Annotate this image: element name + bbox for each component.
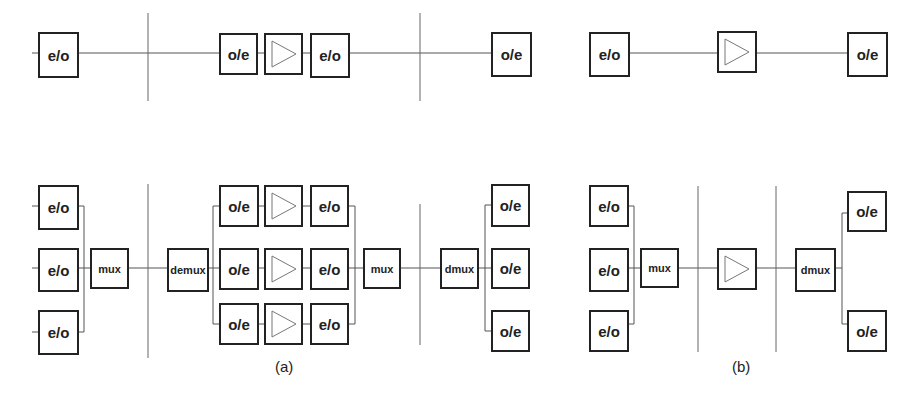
eo-converter-box: e/o <box>589 310 629 352</box>
mux-label: mux <box>648 262 671 274</box>
oe-label: o/e <box>856 323 878 340</box>
eo-converter-box: e/o <box>310 185 349 227</box>
eo-converter-box: e/o <box>38 248 79 292</box>
mux-label: mux <box>98 263 121 275</box>
eo-label: e/o <box>319 198 341 215</box>
amplifier-triangle-icon <box>722 36 752 68</box>
eo-label: e/o <box>319 316 341 333</box>
amplifier-box <box>264 33 303 75</box>
eo-label: e/o <box>48 324 70 341</box>
eo-converter-box: e/o <box>589 185 629 227</box>
oe-label: o/e <box>228 261 250 278</box>
oe-label: o/e <box>228 316 250 333</box>
eo-label: e/o <box>48 199 70 216</box>
eo-converter-box: e/o <box>310 33 350 78</box>
amplifier-box <box>264 248 303 290</box>
eo-label: e/o <box>319 261 341 278</box>
caption-b: (b) <box>732 358 750 375</box>
amplifier-box <box>717 248 757 290</box>
dmux-box: dmux <box>795 248 836 292</box>
eo-converter-box: e/o <box>310 248 349 290</box>
oe-converter-box: o/e <box>491 184 530 227</box>
mux-box: mux <box>90 248 129 289</box>
amplifier-triangle-icon <box>269 308 299 340</box>
demux-label: demux <box>170 264 205 276</box>
oe-label: o/e <box>228 198 250 215</box>
oe-converter-box: o/e <box>847 32 888 77</box>
oe-converter-box: o/e <box>491 310 530 352</box>
caption-a: (a) <box>275 358 293 375</box>
eo-converter-box: e/o <box>310 303 349 345</box>
oe-converter-box: o/e <box>219 303 259 345</box>
oe-label: o/e <box>856 203 878 220</box>
oe-converter-box: o/e <box>219 33 258 75</box>
eo-label: e/o <box>598 262 620 279</box>
oe-label: o/e <box>500 260 522 277</box>
oe-converter-box: o/e <box>491 248 530 289</box>
eo-converter-box: e/o <box>589 248 629 292</box>
eo-converter-box: e/o <box>38 32 79 78</box>
eo-label: e/o <box>48 262 70 279</box>
connection-lines <box>0 0 924 401</box>
eo-converter-box: e/o <box>38 310 79 355</box>
oe-label: o/e <box>500 323 522 340</box>
oe-converter-box: o/e <box>847 310 887 352</box>
amplifier-box <box>717 31 757 73</box>
mux-box: mux <box>363 248 401 289</box>
oe-label: o/e <box>857 46 879 63</box>
dmux-label: dmux <box>801 264 830 276</box>
oe-label: o/e <box>500 197 522 214</box>
amplifier-box <box>264 303 303 345</box>
dmux-label: dmux <box>445 263 474 275</box>
amplifier-triangle-icon <box>269 253 299 285</box>
diagram-canvas: e/o o/e e/o o/e e/o o/e e/o e/o e/o mux … <box>0 0 924 401</box>
oe-converter-box: o/e <box>491 32 532 77</box>
eo-label: e/o <box>48 47 70 64</box>
eo-converter-box: e/o <box>38 185 79 230</box>
oe-converter-box: o/e <box>219 185 259 227</box>
eo-label: e/o <box>599 46 621 63</box>
amplifier-triangle-icon <box>269 190 299 222</box>
oe-label: o/e <box>501 46 523 63</box>
eo-label: e/o <box>598 198 620 215</box>
amplifier-triangle-icon <box>269 38 299 70</box>
eo-converter-box: e/o <box>589 32 630 77</box>
demux-box: demux <box>167 248 209 292</box>
amplifier-triangle-icon <box>722 253 752 285</box>
mux-label: mux <box>371 263 394 275</box>
amplifier-box <box>264 185 303 227</box>
oe-label: o/e <box>228 46 250 63</box>
dmux-box: dmux <box>440 248 479 289</box>
eo-label: e/o <box>598 323 620 340</box>
eo-label: e/o <box>319 47 341 64</box>
oe-converter-box: o/e <box>219 248 259 290</box>
mux-box: mux <box>640 248 679 288</box>
oe-converter-box: o/e <box>847 191 887 232</box>
